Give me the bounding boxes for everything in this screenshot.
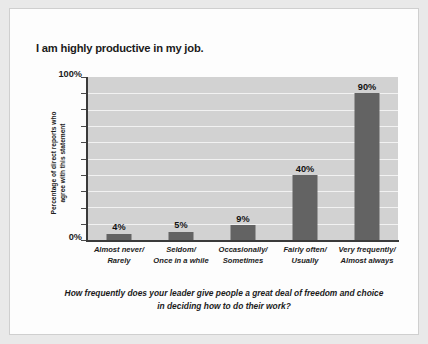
bar-2[interactable]	[231, 225, 256, 240]
x-category-4-line2: Almost always	[330, 256, 404, 267]
bar-group-4[interactable]: 90%	[336, 77, 398, 240]
bar-group-2[interactable]: 9%	[212, 77, 274, 240]
bar-series: 4% 5% 9% 40% 90%	[88, 77, 398, 240]
x-axis-categories: Almost never/ Rarely Seldom/ Once in a w…	[88, 245, 398, 277]
x-category-4: Very frequently/ Almost always	[330, 245, 404, 266]
plot-area: 4% 5% 9% 40% 90%	[88, 77, 398, 240]
bar-value-label-3: 40%	[296, 164, 314, 174]
bar-3[interactable]	[293, 175, 318, 240]
bar-4[interactable]	[355, 93, 380, 240]
x-axis-line	[86, 240, 399, 242]
bar-1[interactable]	[169, 232, 194, 240]
bar-value-label-0: 4%	[112, 222, 125, 232]
y-axis-ticks: 100% 0%	[36, 69, 82, 249]
chart-caption-line2: in deciding how to do their work?	[50, 300, 398, 313]
x-category-4-line1: Very frequently/	[330, 245, 404, 256]
bar-group-1[interactable]: 5%	[150, 77, 212, 240]
chart-caption: How frequently does your leader give peo…	[50, 287, 398, 312]
chart-caption-line1: How frequently does your leader give peo…	[50, 287, 398, 300]
y-tick-100: 100%	[59, 69, 83, 79]
y-tick-0: 0%	[69, 232, 82, 242]
bar-value-label-1: 5%	[174, 220, 187, 230]
chart-card: I am highly productive in my job. Percen…	[9, 8, 419, 335]
page-title: I am highly productive in my job.	[36, 42, 203, 54]
bar-group-0[interactable]: 4%	[88, 77, 150, 240]
bar-0[interactable]	[107, 234, 132, 241]
bar-group-3[interactable]: 40%	[274, 77, 336, 240]
chart-page: I am highly productive in my job. Percen…	[0, 0, 428, 344]
bar-value-label-2: 9%	[236, 214, 249, 224]
bar-value-label-4: 90%	[358, 82, 376, 92]
